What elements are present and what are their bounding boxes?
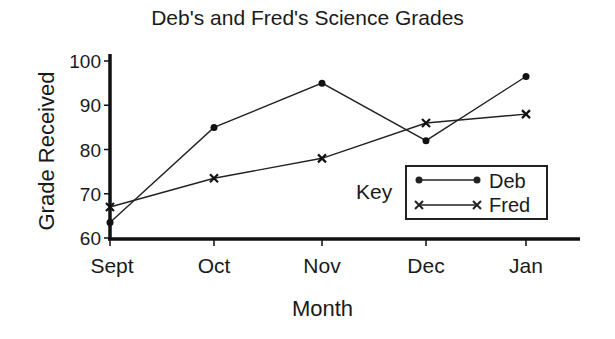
dot-marker-icon (523, 73, 530, 80)
dot-marker-icon (423, 137, 430, 144)
y-tick-label: 90 (80, 95, 101, 116)
x-tick-label: Sept (90, 254, 133, 277)
x-tick-label: Jan (509, 254, 543, 277)
x-tick-label: Oct (198, 254, 231, 277)
y-tick-label: 80 (80, 140, 101, 161)
legend: Deb Fred (405, 165, 548, 220)
tick-labels: 60708090100SeptOctNovDecJan (69, 51, 543, 277)
x-tick-label: Dec (407, 254, 444, 277)
dot-marker-icon (211, 124, 218, 131)
dot-marker-icon (416, 177, 423, 184)
y-tick-label: 100 (69, 51, 101, 72)
x-tick-label: Nov (303, 254, 341, 277)
legend-deb: Deb (489, 170, 526, 193)
dot-marker-icon (107, 219, 114, 226)
y-tick-label: 60 (80, 228, 101, 249)
legend-key-label: Key (356, 180, 392, 204)
dot-marker-icon (474, 177, 481, 184)
y-tick-label: 70 (80, 184, 101, 205)
dot-marker-icon (319, 80, 326, 87)
legend-fred: Fred (489, 194, 530, 217)
